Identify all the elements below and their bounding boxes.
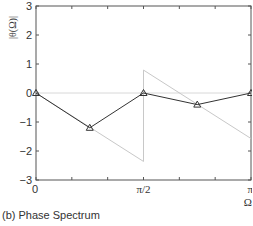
y-tick-label: −3 <box>19 174 32 186</box>
tick-labels: 3210−1−2−30π/2πΩ <box>19 0 252 208</box>
x-tick-label: π <box>247 183 252 195</box>
y-tick-label: 2 <box>26 29 32 41</box>
y-tick-label: −2 <box>19 145 32 157</box>
y-tick-label: 1 <box>26 58 32 70</box>
y-tick-label: 3 <box>26 0 32 12</box>
phase-spectrum-chart: 3210−1−2−30π/2πΩ <box>0 0 252 226</box>
x-tick-label: π/2 <box>136 183 150 195</box>
x-tick-label: 0 <box>32 183 38 195</box>
y-tick-label: −1 <box>19 116 32 128</box>
x-axis-label: Ω <box>244 196 252 208</box>
chart-caption: (b) Phase Spectrum <box>2 209 100 221</box>
y-axis-label: |θ(Ω)| <box>7 8 18 48</box>
data-series <box>33 70 253 161</box>
y-tick-label: 0 <box>26 87 32 99</box>
